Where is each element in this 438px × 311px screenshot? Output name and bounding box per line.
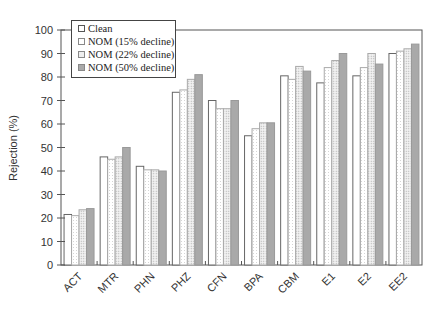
y-axis: 0102030405060708090100 — [35, 24, 65, 271]
bar-e1-series-0 — [317, 83, 325, 265]
bar-cfn-series-3 — [231, 101, 239, 266]
bar-phn-series-3 — [159, 171, 167, 265]
bar-phz-series-0 — [172, 92, 180, 265]
bar-e1-series-3 — [339, 54, 347, 266]
bar-cfn-series-2 — [223, 109, 231, 265]
bar-bpa-series-3 — [267, 123, 275, 265]
y-tick-label: 20 — [41, 212, 53, 224]
x-tick-label: BPA — [241, 269, 265, 293]
y-tick-label: 90 — [41, 48, 53, 60]
x-tick-label: ACT — [60, 270, 84, 294]
legend-item-nom-15: NOM (15% decline) — [78, 35, 175, 48]
legend-swatch-nom-22 — [78, 51, 85, 58]
bar-e1-series-2 — [332, 61, 340, 265]
bar-e2-series-2 — [368, 54, 376, 266]
bar-act-series-3 — [87, 209, 95, 265]
legend-item-nom-22: NOM (22% decline) — [78, 48, 175, 61]
bar-cbm-series-2 — [296, 66, 304, 265]
bar-e2-series-3 — [375, 64, 383, 265]
x-tick-label: E1 — [319, 270, 337, 288]
legend: Clean NOM (15% decline) NOM (22% decline… — [71, 20, 176, 78]
x-tick-label: PHZ — [169, 270, 193, 294]
legend-label: NOM (50% decline) — [88, 61, 174, 74]
bar-e1-series-1 — [324, 68, 332, 265]
y-tick-label: 70 — [41, 95, 53, 107]
bar-bpa-series-1 — [252, 129, 259, 265]
bar-e2-series-0 — [353, 76, 361, 265]
bar-mtr-series-0 — [100, 157, 108, 265]
bar-e2-series-1 — [360, 68, 368, 265]
bar-bpa-series-2 — [260, 123, 268, 265]
bar-cbm-series-3 — [303, 71, 311, 265]
bar-mtr-series-1 — [108, 159, 116, 265]
y-tick-label: 10 — [41, 236, 53, 248]
bar-mtr-series-3 — [123, 148, 130, 266]
x-tick-label: CBM — [275, 270, 301, 296]
x-axis: ACTMTRPHNPHZCFNBPACBME1E2EE2 — [60, 261, 409, 296]
y-tick-label: 80 — [41, 71, 53, 83]
legend-label: NOM (22% decline) — [88, 48, 174, 61]
bar-cbm-series-0 — [281, 76, 289, 265]
bar-act-series-0 — [64, 214, 72, 265]
bar-phn-series-1 — [144, 170, 152, 265]
bar-phz-series-1 — [180, 90, 188, 265]
bar-mtr-series-2 — [115, 157, 123, 265]
bar-cfn-series-0 — [208, 101, 216, 266]
bar-ee2-series-1 — [396, 51, 404, 265]
x-tick-label: PHN — [132, 270, 157, 295]
bar-cbm-series-1 — [288, 79, 296, 265]
bar-ee2-series-3 — [411, 44, 419, 265]
y-tick-label: 60 — [41, 118, 53, 130]
bar-phz-series-3 — [195, 75, 203, 265]
bar-cfn-series-1 — [216, 109, 224, 265]
y-tick-label: 100 — [35, 24, 53, 36]
y-axis-label: Rejection (%) — [7, 115, 19, 181]
legend-item-nom-50: NOM (50% decline) — [78, 61, 175, 74]
bar-chart: 0102030405060708090100 ACTMTRPHNPHZCFNBP… — [0, 0, 438, 311]
y-tick-label: 0 — [47, 259, 53, 271]
y-tick-label: 30 — [41, 189, 53, 201]
bar-phn-series-0 — [136, 166, 144, 265]
legend-label: NOM (15% decline) — [88, 35, 174, 48]
bar-act-series-1 — [72, 216, 80, 265]
x-tick-label: MTR — [95, 270, 120, 295]
bar-phz-series-2 — [187, 79, 195, 265]
legend-swatch-clean — [78, 25, 85, 32]
legend-swatch-nom-15 — [78, 38, 85, 45]
bar-act-series-2 — [79, 210, 87, 265]
legend-item-clean: Clean — [78, 22, 175, 35]
x-tick-label: EE2 — [386, 270, 409, 293]
bar-phn-series-2 — [151, 170, 159, 265]
legend-swatch-nom-50 — [78, 64, 85, 71]
bar-ee2-series-0 — [389, 54, 397, 266]
x-tick-label: E2 — [355, 270, 373, 288]
bar-ee2-series-2 — [404, 49, 412, 265]
y-tick-label: 40 — [41, 165, 53, 177]
legend-label: Clean — [88, 22, 113, 35]
y-tick-label: 50 — [41, 142, 53, 154]
x-tick-label: CFN — [204, 270, 229, 295]
bar-bpa-series-0 — [245, 136, 253, 265]
